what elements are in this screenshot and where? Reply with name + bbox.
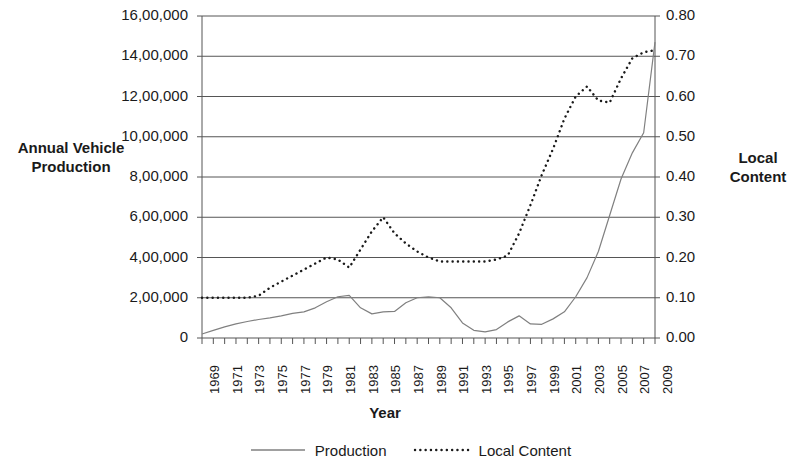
chart-container: Annual Vehicle Production Local Content … xyxy=(0,0,806,473)
legend-label: Local Content xyxy=(479,442,572,459)
legend-label: Production xyxy=(315,442,387,459)
gridlines xyxy=(202,16,655,338)
series-line xyxy=(202,50,655,298)
solid-line-icon xyxy=(249,444,307,456)
plot-area xyxy=(0,0,806,473)
chart-legend: ProductionLocal Content xyxy=(200,437,620,463)
data-series-layer xyxy=(202,42,655,334)
legend-item: Local Content xyxy=(413,442,572,459)
legend-item: Production xyxy=(249,442,387,459)
axis-tickmarks xyxy=(197,16,660,344)
dotted-line-icon xyxy=(413,444,471,456)
